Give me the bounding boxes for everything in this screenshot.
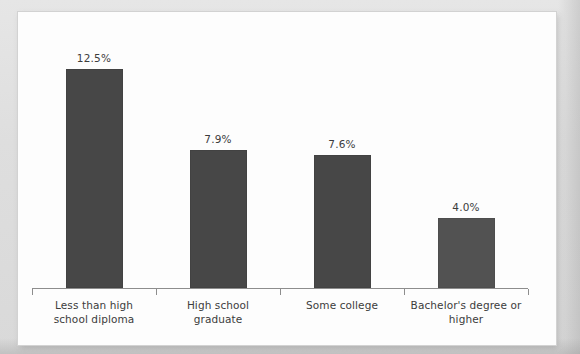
x-axis-category-label: High schoolgraduate	[152, 299, 284, 326]
bar-chart-plot-area: 12.5%7.9%7.6%4.0% Less than highschool d…	[18, 12, 556, 345]
x-axis-category-label-line: higher	[449, 313, 483, 325]
bar-value-label: 7.9%	[178, 133, 258, 145]
chart-panel: 12.5%7.9%7.6%4.0% Less than highschool d…	[18, 12, 556, 345]
bar[interactable]	[438, 218, 495, 288]
bar-value-label: 12.5%	[54, 52, 134, 64]
bar-value-label: 4.0%	[426, 201, 506, 213]
figure-background-shadow-right	[558, 0, 580, 354]
x-axis-category-label-line: Some college	[306, 299, 378, 311]
x-axis-category-label-line: High school	[187, 299, 249, 311]
x-axis-category-label: Bachelor's degree orhigher	[400, 299, 532, 326]
x-axis-tick	[404, 289, 405, 295]
x-axis-category-label: Less than highschool diploma	[28, 299, 160, 326]
x-axis-category-label: Some college	[276, 299, 408, 313]
x-axis-tick	[280, 289, 281, 295]
x-axis-tick	[32, 289, 33, 295]
x-axis-category-label-line: school diploma	[54, 313, 135, 325]
x-axis-category-label-line: Less than high	[55, 299, 133, 311]
x-axis-category-label-line: graduate	[194, 313, 243, 325]
bar-value-label: 7.6%	[302, 138, 382, 150]
bar[interactable]	[314, 155, 371, 288]
bar[interactable]	[190, 150, 247, 288]
x-axis-tick	[156, 289, 157, 295]
x-axis-category-label-line: Bachelor's degree or	[411, 299, 522, 311]
bar[interactable]	[66, 69, 123, 288]
x-axis-tick	[528, 289, 529, 295]
